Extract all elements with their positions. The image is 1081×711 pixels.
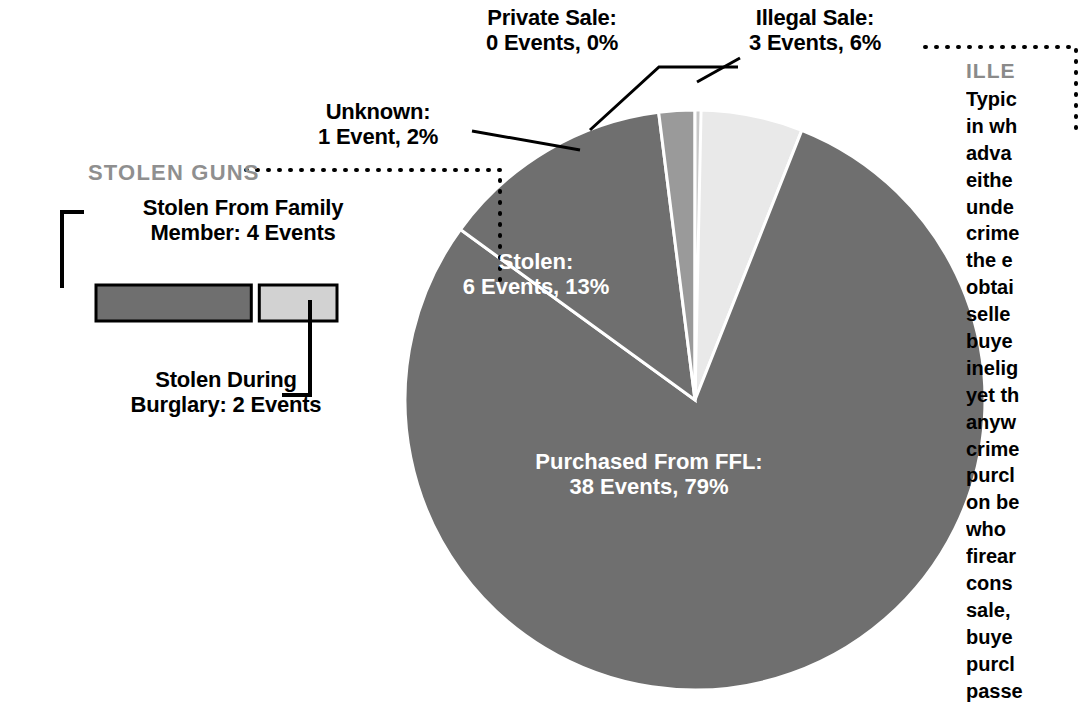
- article-body: Typicin whadvaeitheundecrimethe eobtaise…: [966, 86, 1081, 704]
- legend-label-family-member-line1: Stolen From Family: [78, 196, 408, 221]
- legend-label-burglary: Stolen During Burglary: 2 Events: [76, 368, 376, 418]
- stolen-guns-legend-title: STOLEN GUNS: [88, 160, 260, 186]
- article-line: cons: [966, 570, 1081, 597]
- pie-label-stolen: Stolen: 6 Events, 13%: [406, 249, 666, 299]
- legend-label-burglary-line2: Burglary: 2 Events: [76, 393, 376, 418]
- legend-bar-burglary[interactable]: [259, 285, 337, 321]
- legend-bar-family-member[interactable]: [96, 285, 251, 321]
- article-heading: ILLE: [966, 60, 1081, 81]
- article-line: who: [966, 516, 1081, 543]
- legend-label-family-member: Stolen From Family Member: 4 Events: [78, 196, 408, 246]
- pie-label-private-sale-line2: 0 Events, 0%: [402, 31, 702, 56]
- article-line: yet th: [966, 382, 1081, 409]
- leader-line-illegal-sale: [697, 58, 740, 82]
- article-line: crime: [966, 436, 1081, 463]
- pie-label-purchased-ffl: Purchased From FFL: 38 Events, 79%: [499, 449, 799, 499]
- pie-label-stolen-line2: 6 Events, 13%: [406, 274, 666, 299]
- article-line: obtai: [966, 274, 1081, 301]
- article-line: purcl: [966, 651, 1081, 678]
- illegal-sale-article-column: ILLE Typicin whadvaeitheundecrimethe eob…: [966, 60, 1081, 711]
- article-line: adva: [966, 140, 1081, 167]
- article-line: crime: [966, 220, 1081, 247]
- article-line: firear: [966, 543, 1081, 570]
- pie-label-illegal-sale: Illegal Sale: 3 Events, 6%: [705, 6, 925, 56]
- article-line: anyw: [966, 409, 1081, 436]
- pie-chart-graphic: [0, 0, 1081, 711]
- article-line: on be: [966, 489, 1081, 516]
- article-line: selle: [966, 301, 1081, 328]
- pie-slices: [405, 110, 985, 690]
- article-line: unde: [966, 194, 1081, 221]
- legend-label-family-member-line2: Member: 4 Events: [78, 221, 408, 246]
- article-line: purcl: [966, 462, 1081, 489]
- article-line: passe: [966, 678, 1081, 705]
- pie-label-purchased-ffl-line1: Purchased From FFL:: [499, 449, 799, 474]
- article-line: in wh: [966, 113, 1081, 140]
- article-line: Typic: [966, 86, 1081, 113]
- pie-label-private-sale: Private Sale: 0 Events, 0%: [402, 6, 702, 56]
- article-line: the e: [966, 247, 1081, 274]
- article-line: eithe: [966, 167, 1081, 194]
- article-line: sale,: [966, 597, 1081, 624]
- pie-label-illegal-sale-line1: Illegal Sale:: [705, 6, 925, 31]
- pie-label-stolen-line1: Stolen:: [406, 249, 666, 274]
- pie-label-unknown-line2: 1 Event, 2%: [228, 125, 528, 150]
- pie-label-private-sale-line1: Private Sale:: [402, 6, 702, 31]
- pie-label-unknown-line1: Unknown:: [228, 100, 528, 125]
- pie-label-illegal-sale-line2: 3 Events, 6%: [705, 31, 925, 56]
- article-line: buye: [966, 328, 1081, 355]
- article-line: inelig: [966, 355, 1081, 382]
- legend-label-burglary-line1: Stolen During: [76, 368, 376, 393]
- infographic-canvas: Private Sale: 0 Events, 0% Illegal Sale:…: [0, 0, 1081, 711]
- pie-label-purchased-ffl-line2: 38 Events, 79%: [499, 474, 799, 499]
- article-line: buye: [966, 624, 1081, 651]
- pie-label-unknown: Unknown: 1 Event, 2%: [228, 100, 528, 150]
